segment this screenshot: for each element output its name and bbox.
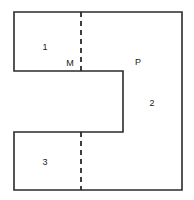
point-label-m: M (66, 59, 74, 68)
geometry-figure (0, 0, 194, 200)
region-label-1: 1 (42, 43, 47, 52)
figure-canvas: 1 M P 2 3 (0, 0, 194, 200)
region-label-2: 2 (149, 99, 154, 108)
c-shape-outline (14, 12, 182, 190)
point-label-p: P (135, 58, 141, 67)
region-label-3: 3 (42, 158, 47, 167)
